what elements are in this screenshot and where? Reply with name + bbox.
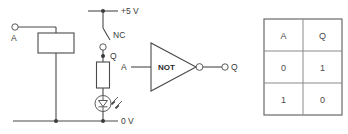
supply-rail-label: +5 V [121,6,139,16]
truth-table-cell-r1c1: 0 [320,95,325,105]
truth-table-cell-r0c1: 1 [320,63,325,73]
gate-input-label: A [121,62,127,72]
gate-label: NOT [158,63,175,72]
nc-contact-label: NC [113,30,125,40]
truth-table-header-q: Q [319,31,326,41]
q-junction-dot [101,54,105,58]
gate-inversion-bubble [196,64,203,71]
truth-table-header-a: A [280,31,286,41]
input-terminal-label: A [11,33,17,43]
truth-table-cell-r1c0: 1 [281,95,286,105]
gate-output-terminal[interactable] [222,64,228,70]
relay-not-circuit: +5 V NC Q [11,6,139,126]
ground-junction-dot-right [101,119,105,123]
nc-contact-terminal [100,44,106,50]
input-terminal-a[interactable] [12,24,18,30]
ground-rail-label: 0 V [121,116,134,126]
output-node-label: Q [110,51,117,61]
figure-svg: +5 V NC Q [0,0,348,134]
relay-coil [38,33,74,53]
figure-root: +5 V NC Q [0,0,348,134]
nc-contact-blade [103,28,110,40]
led-indicator [95,96,122,112]
led-emission-arrow-2 [115,101,122,108]
truth-table-cell-r0c0: 0 [281,63,286,73]
gate-output-label: Q [231,62,238,72]
not-gate-truth-table: A Q 0 1 1 0 [264,19,342,115]
led-emission-arrow-1 [111,97,118,104]
series-resistor [97,62,110,88]
not-gate-symbol: A NOT Q [121,43,238,91]
